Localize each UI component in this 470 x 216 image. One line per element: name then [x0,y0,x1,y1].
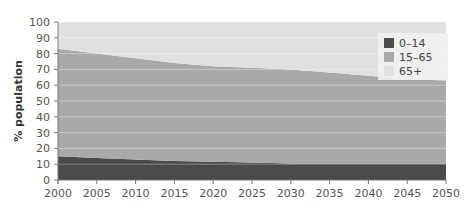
y-tick-label: 0 [43,174,50,187]
x-tick-label: 2040 [354,187,382,200]
y-tick-label: 80 [36,48,50,61]
x-tick-label: 2010 [122,187,150,200]
legend-swatch [384,52,394,62]
legend-label: 15–65 [399,51,433,64]
legend-swatch [384,38,394,48]
x-tick-label: 2005 [83,187,111,200]
y-tick-label: 10 [36,158,50,171]
legend-swatch [384,66,394,76]
legend-item-65-plus: 65+ [384,64,448,78]
y-tick-label: 50 [36,95,50,108]
y-tick-label: 20 [36,142,50,155]
legend-label: 65+ [399,65,422,78]
x-tick-label: 2025 [238,187,266,200]
legend-item-15-65: 15–65 [384,50,448,64]
y-tick-label: 100 [29,16,50,29]
y-tick-label: 60 [36,79,50,92]
x-tick-label: 2030 [277,187,305,200]
y-tick-label: 70 [36,63,50,76]
legend: 0–14 15–65 65+ [378,33,448,80]
legend-label: 0–14 [399,37,426,50]
x-tick-label: 2045 [393,187,421,200]
x-tick-label: 2035 [316,187,344,200]
x-tick-label: 2020 [199,187,227,200]
y-tick-label: 90 [36,32,50,45]
x-tick-label: 2050 [432,187,460,200]
y-tick-label: 40 [36,111,50,124]
x-tick-label: 2015 [160,187,188,200]
y-axis-label: % population [12,60,25,142]
x-tick-label: 2000 [44,187,72,200]
y-tick-label: 30 [36,127,50,140]
legend-item-0-14: 0–14 [384,36,448,50]
